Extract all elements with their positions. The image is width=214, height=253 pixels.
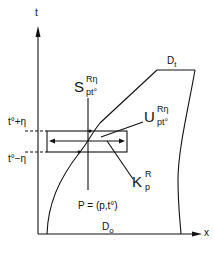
right-boundary-curve: [178, 70, 195, 234]
s-label-sup: Rη: [86, 75, 98, 84]
s-label: S: [74, 79, 84, 94]
x-axis-arrowhead: [192, 232, 202, 237]
upper-tick-label: t°+η: [8, 117, 26, 127]
curve-dot-upper: [88, 129, 91, 132]
diagram-canvas: [0, 0, 214, 253]
t-axis-label: t: [35, 8, 38, 18]
x-axis-label: x: [204, 228, 209, 238]
inner-arrow-left-head: [49, 139, 55, 144]
u-label-sub: pt°: [157, 118, 168, 127]
u-leader-line: [101, 122, 143, 137]
point-p-label: P = (p,t°): [78, 201, 118, 211]
u-label: U: [144, 109, 155, 124]
region-label-dt: Dt: [167, 56, 176, 66]
do-sub: o: [109, 226, 113, 235]
inner-arrow-right-head: [119, 139, 125, 144]
k-label: K: [132, 174, 142, 189]
s-label-sub: pt°: [86, 88, 97, 97]
lower-tick-label: t°−η: [8, 154, 26, 164]
u-label-sup: Rη: [157, 105, 169, 114]
k-leader-line: [107, 141, 133, 179]
k-label-sub: p: [145, 183, 150, 192]
t-axis-arrowhead: [36, 26, 41, 37]
curve-dot-lower: [78, 151, 81, 154]
k-label-sup: R: [145, 170, 152, 179]
region-label-do: Do: [102, 222, 114, 232]
